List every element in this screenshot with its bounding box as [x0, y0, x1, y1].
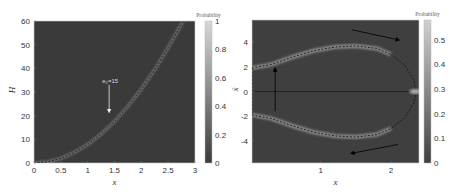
x-axis-label: x [333, 177, 338, 187]
highlight-spot [409, 89, 421, 94]
x-tick-label: 2.5 [163, 166, 175, 175]
x-tick-label: 1.5 [109, 166, 121, 175]
y-axis-label: ẋ [230, 88, 240, 93]
y-tick-label: 50 [21, 41, 30, 50]
x-tick-label: 1 [85, 166, 90, 175]
y-tick-label: 0 [26, 159, 31, 168]
colorbar-tick-label: 0.4 [215, 102, 227, 111]
colorbar [205, 21, 212, 163]
y-tick-label: 30 [21, 88, 30, 97]
colorbar-tick-label: 0.5 [434, 36, 446, 45]
colorbar-title: Probability [196, 12, 221, 18]
right-panel: 12420-2-4xẋ00.10.20.30.40.5Probability [230, 11, 446, 187]
figure: e₀=1500.511.522.530102030405060xH00.20.4… [0, 0, 453, 192]
colorbar-tick-label: 0.6 [215, 74, 227, 83]
x-tick-label: 2 [139, 166, 144, 175]
colorbar-tick-label: 0 [434, 159, 439, 168]
y-tick-label: 4 [244, 38, 249, 47]
colorbar-tick-label: 0.1 [434, 134, 446, 143]
y-tick-label: 60 [21, 17, 30, 26]
x-tick-label: 1 [319, 166, 324, 175]
x-tick-label: 2 [389, 166, 394, 175]
left-panel: e₀=1500.511.522.530102030405060xH00.20.4… [7, 12, 227, 187]
y-tick-label: 0 [244, 88, 249, 97]
colorbar-tick-label: 0.8 [215, 45, 227, 54]
colorbar-tick-label: 0.3 [434, 85, 446, 94]
y-tick-label: 20 [21, 112, 30, 121]
x-tick-label: 0 [32, 166, 37, 175]
annotation-label: e₀=15 [102, 78, 119, 84]
colorbar-tick-label: 0.2 [215, 131, 227, 140]
colorbar-tick-label: 0.4 [434, 60, 446, 69]
y-axis-label: H [7, 86, 17, 94]
colorbar-title: Probability [415, 11, 440, 17]
colorbar-tick-label: 0 [215, 159, 220, 168]
y-tick-label: -4 [241, 137, 249, 146]
colorbar-tick-label: 0.2 [434, 110, 446, 119]
y-tick-label: 2 [244, 63, 249, 72]
y-tick-label: 10 [21, 135, 30, 144]
colorbar [424, 20, 431, 163]
y-tick-label: 40 [21, 64, 30, 73]
x-tick-label: 3 [193, 166, 198, 175]
y-tick-label: -2 [241, 112, 249, 121]
x-tick-label: 0.5 [55, 166, 67, 175]
x-axis-label: x [112, 177, 117, 187]
colorbar-tick-label: 1 [215, 17, 220, 26]
